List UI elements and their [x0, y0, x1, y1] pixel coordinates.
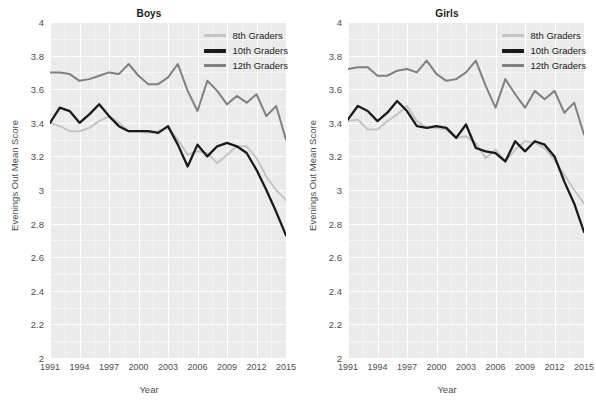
- x-tick-label: 1994: [69, 362, 89, 372]
- x-tick-label: 1994: [367, 362, 387, 372]
- x-tick-label: 2015: [276, 362, 296, 372]
- y-tick-label: 2.6: [31, 252, 44, 263]
- figure-container: BoysEvenings Out Mean ScoreYear22.22.42.…: [0, 0, 596, 406]
- legend-item[interactable]: 10th Graders: [502, 44, 586, 57]
- x-tick-label: 2012: [544, 362, 564, 372]
- x-tick-label: 2006: [187, 362, 207, 372]
- legend-key-swatch: [204, 34, 226, 37]
- x-tick-label: 2012: [246, 362, 266, 372]
- y-tick-labels: 22.22.42.62.833.23.43.63.84: [0, 22, 48, 358]
- x-tick-label: 2009: [515, 362, 535, 372]
- y-tick-label: 2.2: [329, 319, 342, 330]
- y-tick-label: 3.8: [31, 50, 44, 61]
- x-tick-label: 2006: [485, 362, 505, 372]
- legend: 8th Graders10th Graders12th Graders: [200, 26, 292, 77]
- x-tick-label: 1991: [338, 362, 358, 372]
- panel-boys: BoysEvenings Out Mean ScoreYear22.22.42.…: [0, 0, 298, 406]
- y-tick-label: 2.4: [329, 285, 342, 296]
- y-tick-label: 4: [39, 17, 44, 28]
- gridline-major-h: [348, 358, 584, 359]
- y-tick-label: 2.8: [329, 218, 342, 229]
- x-tick-label: 2015: [574, 362, 594, 372]
- x-axis-label: Year: [298, 384, 596, 395]
- x-tick-labels: 199119941997200020032006200920122015: [348, 360, 584, 378]
- x-tick-labels: 199119941997200020032006200920122015: [50, 360, 286, 378]
- legend-item[interactable]: 8th Graders: [204, 29, 288, 42]
- legend-item[interactable]: 8th Graders: [502, 29, 586, 42]
- panel-girls: GirlsEvenings Out Mean ScoreYear22.22.42…: [298, 0, 596, 406]
- y-tick-label: 2.2: [31, 319, 44, 330]
- legend-key-swatch: [204, 49, 226, 53]
- facet-title: Boys: [0, 8, 298, 19]
- y-tick-label: 4: [337, 17, 342, 28]
- legend-item[interactable]: 12th Graders: [204, 59, 288, 72]
- y-tick-label: 3.6: [329, 84, 342, 95]
- legend: 8th Graders10th Graders12th Graders: [498, 26, 590, 77]
- legend-label: 12th Graders: [233, 60, 288, 71]
- legend-item[interactable]: 10th Graders: [204, 44, 288, 57]
- y-tick-label: 3: [39, 185, 44, 196]
- series-line-8th-graders: [348, 106, 584, 203]
- series-line-10th-graders: [50, 104, 286, 235]
- x-tick-label: 2003: [158, 362, 178, 372]
- legend-label: 10th Graders: [531, 45, 586, 56]
- x-tick-label: 1991: [40, 362, 60, 372]
- x-tick-label: 2000: [128, 362, 148, 372]
- gridline-major-h: [50, 358, 286, 359]
- facet-title: Girls: [298, 8, 596, 19]
- legend-key-swatch: [502, 49, 524, 53]
- legend-label: 8th Graders: [233, 30, 283, 41]
- y-tick-label: 2.4: [31, 285, 44, 296]
- x-tick-label: 2000: [426, 362, 446, 372]
- legend-key-swatch: [502, 64, 524, 67]
- x-tick-label: 1997: [397, 362, 417, 372]
- x-tick-label: 2009: [217, 362, 237, 372]
- y-tick-label: 3.4: [31, 117, 44, 128]
- legend-label: 12th Graders: [531, 60, 586, 71]
- x-axis-label: Year: [0, 384, 298, 395]
- y-tick-label: 2.8: [31, 218, 44, 229]
- legend-key-swatch: [502, 34, 524, 37]
- legend-key-swatch: [204, 64, 226, 67]
- y-tick-label: 2.6: [329, 252, 342, 263]
- y-tick-label: 3.6: [31, 84, 44, 95]
- legend-label: 10th Graders: [233, 45, 288, 56]
- y-tick-label: 3.2: [329, 151, 342, 162]
- x-tick-label: 1997: [99, 362, 119, 372]
- x-tick-label: 2003: [456, 362, 476, 372]
- y-tick-label: 3.4: [329, 117, 342, 128]
- legend-item[interactable]: 12th Graders: [502, 59, 586, 72]
- y-tick-labels: 22.22.42.62.833.23.43.63.84: [298, 22, 346, 358]
- y-tick-label: 3: [337, 185, 342, 196]
- y-tick-label: 3.8: [329, 50, 342, 61]
- series-line-10th-graders: [348, 101, 584, 232]
- legend-label: 8th Graders: [531, 30, 581, 41]
- y-tick-label: 3.2: [31, 151, 44, 162]
